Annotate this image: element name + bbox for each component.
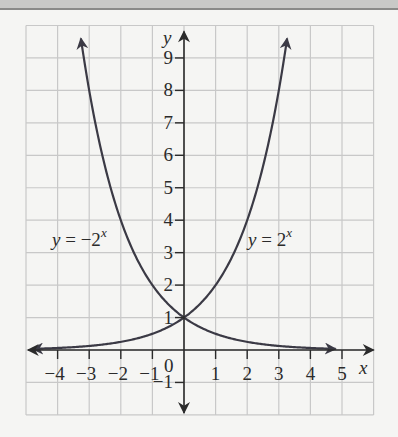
label-y: y bbox=[50, 229, 61, 250]
x-tick-label: 1 bbox=[211, 363, 221, 384]
y-tick-label: 2 bbox=[164, 274, 174, 295]
x-tick-label: 5 bbox=[337, 363, 347, 384]
label-y: y bbox=[246, 229, 257, 250]
x-tick-label: 4 bbox=[306, 363, 316, 384]
exponential-graph: −4−3−2−112345−1123456789 x y 0 y = −2x y… bbox=[0, 0, 398, 437]
y-tick-label: 4 bbox=[164, 209, 174, 230]
y-tick-label: 7 bbox=[164, 112, 174, 133]
grid bbox=[26, 26, 374, 415]
x-tick-label: 2 bbox=[242, 363, 252, 384]
y-tick-label: 6 bbox=[164, 144, 174, 165]
origin-label: 0 bbox=[164, 355, 174, 376]
y-tick-label: 3 bbox=[164, 242, 174, 263]
curve-label-neg-2-pow-x: y = −2x bbox=[50, 225, 107, 250]
label-exp: x bbox=[285, 225, 292, 240]
y-tick-label: 8 bbox=[164, 79, 174, 100]
y-axis-label: y bbox=[161, 27, 172, 48]
curve-neg-2-pow-x bbox=[81, 38, 336, 348]
y-tick-label: 5 bbox=[164, 177, 174, 198]
label-eq-neg-2: = −2 bbox=[60, 229, 100, 250]
label-eq-2: = 2 bbox=[256, 229, 286, 250]
y-tick-label: 1 bbox=[164, 307, 174, 328]
axes bbox=[28, 32, 374, 413]
x-tick-label: −2 bbox=[108, 363, 128, 384]
x-axis-label: x bbox=[358, 357, 368, 378]
curve-label-2-pow-x: y = 2x bbox=[246, 225, 292, 250]
x-tick-label: −3 bbox=[76, 363, 96, 384]
y-tick-label: 9 bbox=[164, 47, 174, 68]
label-exp: x bbox=[100, 225, 107, 240]
x-tick-label: 3 bbox=[274, 363, 284, 384]
curve-2-pow-x bbox=[32, 38, 287, 348]
x-tick-label: −4 bbox=[44, 363, 65, 384]
